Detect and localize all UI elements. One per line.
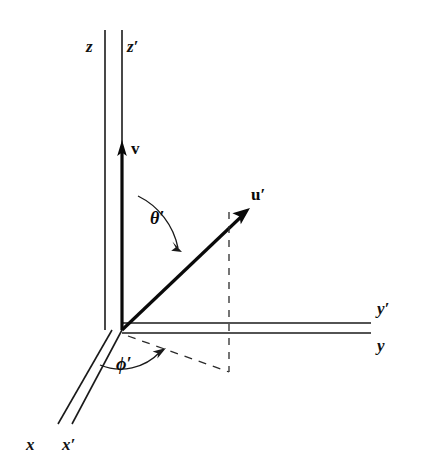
axis-label-x-prime: x′ xyxy=(62,436,75,453)
v-vector xyxy=(117,140,127,330)
angle-label-phi-prime: ϕ′ xyxy=(116,355,131,373)
axis-label-z: z xyxy=(86,38,93,55)
u-prime-vector xyxy=(122,208,250,330)
axis-label-x: x xyxy=(26,436,35,453)
x-prime-axis-line xyxy=(72,330,122,424)
vector-label-v: v xyxy=(131,140,140,157)
x-axis-line xyxy=(58,330,112,424)
axis-label-z-prime: z′ xyxy=(127,38,138,55)
xy-plane-projection-line xyxy=(128,336,229,372)
axis-label-y-prime: y′ xyxy=(377,300,389,317)
diagram-canvas xyxy=(0,0,422,468)
coordinate-system-diagram: z z′ y y′ x x′ v u′ θ′ ϕ′ xyxy=(0,0,422,468)
axis-label-y: y xyxy=(377,337,385,354)
vector-label-u-prime: u′ xyxy=(251,186,265,203)
angle-label-theta-prime: θ′ xyxy=(150,209,164,227)
